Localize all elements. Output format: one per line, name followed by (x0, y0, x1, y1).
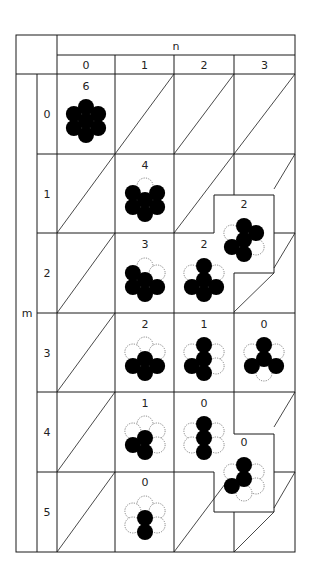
vacancy-count: 1 (201, 318, 208, 331)
empty-cell-diagonal (57, 392, 115, 472)
occupied-atom-icon (236, 457, 252, 473)
cluster-cells: 642322101000 (66, 80, 284, 540)
vacancy-count: 1 (142, 397, 149, 410)
occupied-atom-icon (78, 113, 94, 129)
empty-cell-diagonal (274, 472, 295, 508)
occupied-atom-icon (137, 192, 153, 208)
vacancy-count: 0 (241, 436, 248, 449)
row-header-1: 1 (44, 188, 51, 201)
occupied-atom-icon (196, 365, 212, 381)
occupied-atom-icon (196, 430, 212, 446)
occupied-atom-icon (137, 430, 153, 446)
col-header-1: 1 (141, 59, 148, 72)
empty-cell-diagonal (274, 154, 295, 189)
empty-cell-diagonal (174, 154, 234, 233)
col-axis-label: n (173, 40, 180, 53)
cluster-m3-n2: 1 (184, 318, 224, 381)
empty-cell-diagonal (274, 392, 295, 427)
occupied-atom-icon (256, 351, 272, 367)
occupied-atom-icon (236, 471, 252, 487)
occupied-atom-icon (196, 337, 212, 353)
occupied-atom-icon (256, 337, 272, 353)
col-header-0: 0 (83, 59, 90, 72)
occupied-atom-icon (236, 232, 252, 248)
cluster-m2-n2: 2 (184, 238, 224, 302)
cluster-configuration-table: n m 0123 012345 642322101000 (0, 0, 312, 584)
row-header-3: 3 (44, 347, 51, 360)
row-header-4: 4 (44, 426, 51, 439)
row-header-0: 0 (44, 108, 51, 121)
empty-cell-diagonal (57, 233, 115, 313)
cluster-m0-n0: 6 (66, 80, 106, 143)
occupied-atom-icon (137, 524, 153, 540)
row-header-5: 5 (44, 506, 51, 519)
occupied-atom-icon (137, 365, 153, 381)
cluster-m1-n3: 2 (224, 198, 264, 262)
empty-cell-diagonal (57, 154, 115, 233)
col-header-3: 3 (261, 59, 268, 72)
empty-cell-diagonal (234, 273, 274, 312)
cluster-m1-n1: 4 (125, 159, 165, 222)
occupied-atom-icon (196, 258, 212, 274)
cluster-m2-n1: 3 (125, 238, 165, 302)
cluster-m5-n1: 0 (125, 476, 165, 540)
occupied-atom-icon (137, 510, 153, 526)
vacancy-count: 6 (83, 80, 90, 93)
cluster-m4-n2: 0 (184, 397, 224, 460)
empty-cell-diagonal (234, 74, 295, 154)
cluster-m3-n1: 2 (125, 318, 165, 381)
col-header-2: 2 (201, 59, 208, 72)
occupied-atom-icon (137, 272, 153, 288)
occupied-atom-icon (196, 444, 212, 460)
occupied-atom-icon (196, 416, 212, 432)
cluster-m3-n3: 0 (244, 318, 284, 381)
empty-cell-diagonal (115, 74, 174, 154)
row-header-2: 2 (44, 267, 51, 280)
vacancy-count: 0 (142, 476, 149, 489)
vacancy-count: 2 (201, 238, 208, 251)
occupied-atom-icon (196, 272, 212, 288)
cluster-m4-n1: 1 (125, 397, 165, 460)
vacancy-count: 2 (241, 198, 248, 211)
column-headers: 0123 (83, 59, 269, 72)
vacancy-count: 3 (142, 238, 149, 251)
occupied-atom-icon (236, 246, 252, 262)
vacancy-count: 4 (142, 159, 149, 172)
occupied-atom-icon (137, 351, 153, 367)
row-axis-label: m (22, 307, 33, 320)
empty-cell-diagonal (57, 313, 115, 392)
empty-cell-diagonal (57, 472, 115, 552)
vacancy-count: 2 (142, 318, 149, 331)
empty-cell-diagonal (234, 512, 274, 552)
empty-cell-diagonal (174, 74, 234, 154)
vacancy-count: 0 (261, 318, 268, 331)
occupied-atom-icon (196, 351, 212, 367)
cluster-m4-n3: 0 (224, 436, 264, 501)
empty-cell-diagonal (274, 233, 295, 268)
vacancy-count: 0 (201, 397, 208, 410)
occupied-atom-icon (137, 444, 153, 460)
